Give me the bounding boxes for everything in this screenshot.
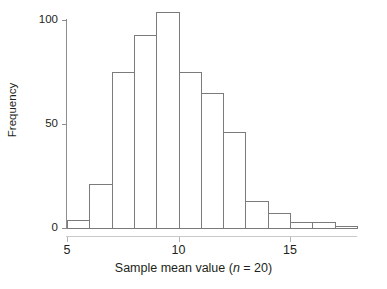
x-axis-tick-label: 10 — [159, 244, 199, 257]
y-axis-tick-label: 50 — [24, 118, 58, 129]
y-axis-line — [66, 19, 67, 229]
histogram-bar — [201, 93, 224, 229]
x-axis-tick — [290, 237, 291, 242]
histogram-bar — [290, 222, 313, 229]
y-axis-title: Frequency — [6, 70, 18, 150]
histogram-bar — [156, 12, 179, 229]
x-axis-line — [66, 236, 357, 237]
x-axis-title-variable: n — [233, 261, 240, 275]
y-axis-tick-label: 100 — [24, 14, 58, 25]
histogram-bar — [89, 184, 112, 229]
histogram-chart: Frequency 050100 51015 Sample mean value… — [0, 0, 387, 289]
histogram-bar — [335, 226, 358, 229]
histogram-bar — [312, 222, 335, 229]
y-axis-tick — [62, 228, 66, 229]
x-axis-tick-label: 15 — [270, 244, 310, 257]
histogram-bar — [112, 72, 135, 229]
histogram-bar — [223, 132, 246, 229]
histogram-bar — [67, 220, 90, 229]
x-axis-tick — [67, 237, 68, 242]
y-axis-tick — [62, 124, 66, 125]
histogram-bar — [268, 213, 291, 229]
histogram-bar — [245, 201, 268, 229]
y-axis-tick-label: 0 — [24, 222, 58, 233]
histogram-bar — [179, 72, 202, 229]
histogram-bar — [134, 35, 157, 229]
x-axis-title: Sample mean value (n = 20) — [0, 261, 387, 275]
x-axis-tick — [179, 237, 180, 242]
x-axis-tick-label: 5 — [47, 244, 87, 257]
y-axis-tick — [62, 20, 66, 21]
